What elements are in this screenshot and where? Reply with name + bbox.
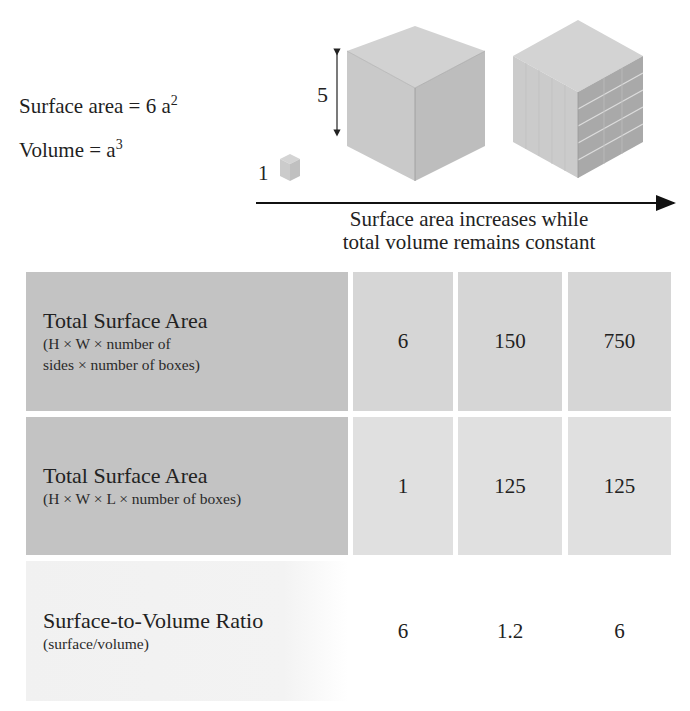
row-subtitle: (H × W × L × number of boxes) [43, 488, 348, 509]
row-title: Surface-to-Volume Ratio [43, 608, 348, 633]
table-cell: 125 [568, 417, 671, 555]
row-subtitle: (H × W × number of [43, 333, 348, 354]
table-cell: 150 [458, 272, 562, 411]
row-subtitle: sides × number of boxes) [43, 354, 348, 375]
caption-line-1: Surface area increases while [256, 208, 682, 231]
subdivided-cube-icon [513, 20, 643, 178]
table-cell: 1.2 [458, 561, 562, 701]
row-subtitle: (surface/volume) [43, 633, 348, 654]
table-cell: 6 [353, 561, 453, 701]
diagram-caption: Surface area increases while total volum… [256, 208, 682, 254]
table-cell: 6 [568, 561, 671, 701]
table-cell: 1 [353, 417, 453, 555]
row-label-total-surface-area-sides: Total Surface Area (H × W × number of si… [26, 272, 348, 411]
large-cube-dimension-label: 5 [317, 82, 328, 107]
caption-line-2: total volume remains constant [256, 231, 682, 254]
row-title: Total Surface Area [43, 308, 348, 333]
small-cube-label: 1 [258, 161, 269, 185]
table-cell: 6 [353, 272, 453, 411]
row-label-surface-to-volume-ratio: Surface-to-Volume Ratio (surface/volume) [26, 561, 348, 701]
row-label-total-surface-area-volume: Total Surface Area (H × W × L × number o… [26, 417, 348, 555]
row-title: Total Surface Area [43, 463, 348, 488]
large-cube-icon [347, 26, 485, 181]
small-cube-icon [280, 154, 300, 181]
table-cell: 750 [568, 272, 671, 411]
table-cell: 125 [458, 417, 562, 555]
